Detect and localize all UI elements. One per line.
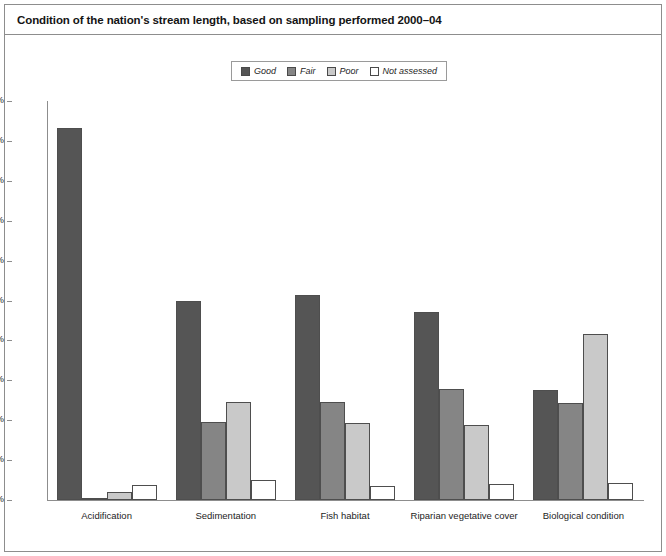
bar-not-assessed[interactable]	[132, 485, 157, 500]
y-axis-tick: 100%	[0, 101, 53, 102]
y-tick-mark	[7, 340, 12, 341]
bar-fair[interactable]	[82, 498, 107, 500]
bar-not-assessed[interactable]	[370, 486, 395, 500]
bar-good[interactable]	[176, 301, 201, 501]
bar-not-assessed[interactable]	[608, 483, 633, 500]
y-tick-label: 40%	[0, 333, 4, 344]
bar-not-assessed[interactable]	[489, 484, 514, 500]
bar-not-assessed[interactable]	[251, 480, 276, 500]
y-tick-mark	[7, 460, 12, 461]
bar-good[interactable]	[533, 390, 558, 500]
y-axis-tick: 60%	[0, 261, 53, 262]
legend-item-good[interactable]: Good	[241, 66, 276, 76]
legend-label: Poor	[340, 66, 359, 76]
legend-label: Good	[254, 66, 276, 76]
y-tick-mark	[7, 261, 12, 262]
chart-legend: GoodFairPoorNot assessed	[231, 61, 447, 81]
legend-item-not-assessed[interactable]: Not assessed	[370, 66, 438, 76]
y-tick-mark	[7, 301, 12, 302]
y-tick-mark	[7, 221, 12, 222]
bar-poor[interactable]	[107, 492, 132, 500]
bar-group	[414, 101, 514, 500]
plot-area	[47, 101, 643, 500]
y-axis-tick: 70%	[0, 221, 53, 222]
legend-item-poor[interactable]: Poor	[327, 66, 359, 76]
bar-group	[533, 101, 633, 500]
y-tick-label: 80%	[0, 174, 4, 185]
legend-swatch-icon	[327, 67, 336, 76]
y-tick-label: 50%	[0, 294, 4, 305]
x-category-label: Riparian vegetative cover	[405, 510, 524, 522]
y-tick-label: 10%	[0, 453, 4, 464]
legend-swatch-icon	[287, 67, 296, 76]
y-axis-tick: 20%	[0, 420, 53, 421]
legend-swatch-icon	[241, 67, 250, 76]
bar-fair[interactable]	[439, 389, 464, 500]
x-category-label: Sedimentation	[166, 510, 285, 522]
bar-group	[176, 101, 276, 500]
y-tick-label: 0%	[0, 493, 4, 504]
x-category-label: Acidification	[47, 510, 166, 522]
y-tick-mark	[7, 181, 12, 182]
bar-fair[interactable]	[320, 402, 345, 500]
y-axis-tick: 90%	[0, 141, 53, 142]
bar-group	[57, 101, 157, 500]
y-tick-mark	[7, 380, 12, 381]
bar-poor[interactable]	[226, 402, 251, 500]
y-axis-tick: 80%	[0, 181, 53, 182]
y-tick-label: 30%	[0, 373, 4, 384]
bar-poor[interactable]	[345, 423, 370, 500]
legend-label: Not assessed	[383, 66, 438, 76]
y-tick-label: 70%	[0, 214, 4, 225]
title-bar: Condition of the nation's stream length,…	[5, 5, 661, 35]
bar-good[interactable]	[295, 295, 320, 500]
y-axis-tick: 40%	[0, 340, 53, 341]
y-tick-label: 100%	[0, 94, 4, 105]
x-axis-line	[47, 500, 644, 501]
y-tick-label: 90%	[0, 134, 4, 145]
y-axis-tick: 30%	[0, 380, 53, 381]
y-axis-tick: 0%	[0, 500, 53, 501]
y-tick-mark	[7, 500, 12, 501]
legend-swatch-icon	[370, 67, 379, 76]
bar-poor[interactable]	[464, 425, 489, 500]
legend-label: Fair	[300, 66, 316, 76]
legend-item-fair[interactable]: Fair	[287, 66, 316, 76]
y-tick-label: 20%	[0, 413, 4, 424]
bar-good[interactable]	[57, 128, 82, 500]
y-tick-mark	[7, 420, 12, 421]
y-tick-mark	[7, 141, 12, 142]
bar-group	[295, 101, 395, 500]
y-axis-tick: 50%	[0, 301, 53, 302]
bar-poor[interactable]	[583, 334, 608, 500]
bar-fair[interactable]	[201, 422, 226, 500]
y-tick-label: 60%	[0, 254, 4, 265]
bar-fair[interactable]	[558, 403, 583, 500]
y-tick-mark	[7, 101, 12, 102]
y-axis-tick: 10%	[0, 460, 53, 461]
bar-good[interactable]	[414, 312, 439, 500]
x-category-label: Fish habitat	[285, 510, 404, 522]
chart-figure: Condition of the nation's stream length,…	[0, 0, 666, 556]
x-category-label: Biological condition	[524, 510, 643, 522]
chart-title: Condition of the nation's stream length,…	[5, 14, 442, 26]
